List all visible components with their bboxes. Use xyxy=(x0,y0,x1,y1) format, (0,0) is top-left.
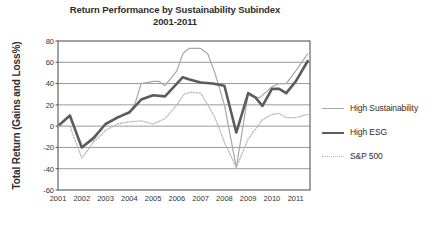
y-tick-label: 60 xyxy=(46,58,54,67)
x-tick-label: 2010 xyxy=(264,194,281,203)
y-tick-label: 40 xyxy=(46,79,54,88)
x-tick-label: 2003 xyxy=(97,194,114,203)
y-tick-label: 20 xyxy=(46,101,54,110)
x-tick-label: 2002 xyxy=(73,194,90,203)
x-tick-label: 2009 xyxy=(240,194,257,203)
legend-item-high-sustainability[interactable]: High Sustainability xyxy=(322,96,439,120)
legend-item-sp500[interactable]: S&P 500 xyxy=(322,144,439,168)
x-tick-label: 2007 xyxy=(192,194,209,203)
plot-frame xyxy=(58,41,310,190)
y-tick-label: 80 xyxy=(46,37,54,46)
legend-swatch-high-sustainability-icon xyxy=(322,103,344,113)
chart-legend: High Sustainability High ESG S&P 500 xyxy=(322,96,439,168)
x-tick-label: 2011 xyxy=(288,194,304,203)
series-line-high-sustainability xyxy=(58,48,308,167)
series-lines xyxy=(58,48,308,167)
series-line-s-p-500 xyxy=(58,92,308,168)
x-tick-label: 2001 xyxy=(50,194,67,203)
y-tick-label: -40 xyxy=(43,165,54,174)
x-tick-labels: 2001200220032004200520062007200820092010… xyxy=(50,194,304,203)
x-tick-label: 2004 xyxy=(121,194,138,203)
y-tick-label: 0 xyxy=(50,122,54,131)
x-tick-label: 2008 xyxy=(216,194,233,203)
x-tick-label: 2005 xyxy=(145,194,162,203)
series-line-high-esg xyxy=(58,61,308,147)
legend-label-high-esg: High ESG xyxy=(350,127,387,137)
legend-swatch-sp500-icon xyxy=(322,151,344,161)
chart-container: Return Performance by Sustainability Sub… xyxy=(0,0,439,231)
y-tick-labels: 806040200-20-40-60 xyxy=(43,37,58,195)
legend-item-high-esg[interactable]: High ESG xyxy=(322,120,439,144)
legend-swatch-high-esg-icon xyxy=(322,127,344,137)
legend-label-sp500: S&P 500 xyxy=(350,151,383,161)
x-tick-label: 2006 xyxy=(169,194,186,203)
y-tick-label: -20 xyxy=(43,143,54,152)
legend-label-high-sustainability: High Sustainability xyxy=(350,103,418,113)
